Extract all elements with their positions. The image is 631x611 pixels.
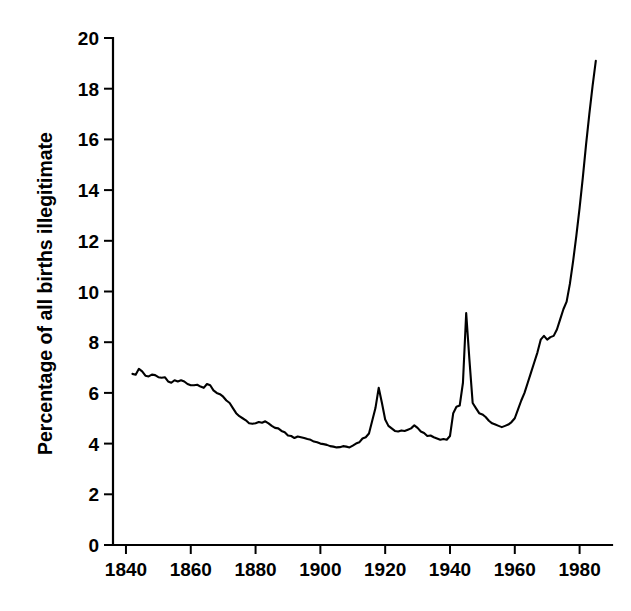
y-axis-label-text: Percentage of all births illegitimate xyxy=(34,132,56,455)
x-tick-label-1980: 1980 xyxy=(558,559,600,580)
y-tick-label-4: 4 xyxy=(88,434,99,455)
x-tick-label-1860: 1860 xyxy=(170,559,212,580)
x-tick-label-1960: 1960 xyxy=(494,559,536,580)
y-tick-label-6: 6 xyxy=(88,383,99,404)
x-axis-tick-labels: 18401860188019001920194019601980 xyxy=(105,559,601,580)
y-tick-label-16: 16 xyxy=(78,129,99,150)
y-axis-ticks xyxy=(104,38,113,545)
x-tick-label-1920: 1920 xyxy=(364,559,406,580)
axes xyxy=(113,38,612,545)
y-tick-label-0: 0 xyxy=(88,535,99,556)
x-tick-label-1900: 1900 xyxy=(299,559,341,580)
y-axis-tick-labels: 02468101214161820 xyxy=(78,28,100,556)
chart-figure: Percentage of all births illegitimate 02… xyxy=(0,0,631,611)
data-series-line xyxy=(132,61,595,448)
y-tick-label-14: 14 xyxy=(78,180,100,201)
y-tick-label-10: 10 xyxy=(78,282,99,303)
x-axis-ticks xyxy=(126,545,580,554)
y-tick-label-18: 18 xyxy=(78,79,99,100)
x-tick-label-1880: 1880 xyxy=(234,559,276,580)
y-tick-label-8: 8 xyxy=(88,332,99,353)
y-tick-label-20: 20 xyxy=(78,28,99,49)
y-axis-label: Percentage of all births illegitimate xyxy=(34,132,56,455)
y-tick-label-12: 12 xyxy=(78,231,99,252)
line-chart: Percentage of all births illegitimate 02… xyxy=(0,0,631,611)
x-tick-label-1840: 1840 xyxy=(105,559,147,580)
x-tick-label-1940: 1940 xyxy=(429,559,471,580)
y-tick-label-2: 2 xyxy=(88,484,99,505)
